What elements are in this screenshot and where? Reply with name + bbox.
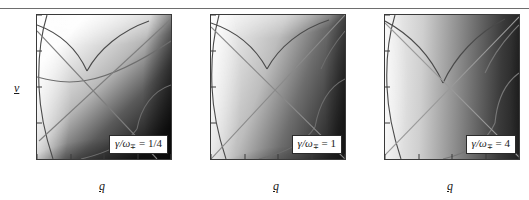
panel-3-xtick-mark-0 [452, 154, 453, 159]
panel-2-ytick-mark-1 [211, 51, 216, 52]
panel-2: γ/ω∓ = 1 2 1 0 -1 -2 -1 0 1 2 q [176, 14, 352, 200]
panel-3-equals: = [493, 137, 505, 149]
figure-root: γ/ω∓ = 1/4 2 1 0 -1 -2 -1 0 1 2 v q [0, 0, 529, 200]
panel-1-x-axis-label: q [99, 180, 105, 192]
panel-2-equals: = [319, 137, 331, 149]
panel-1-ytick-mark-1 [37, 51, 42, 52]
panel-2-ytick-mark-0 [211, 87, 216, 88]
panel-3-xtick-mark-n1 [418, 154, 419, 159]
panel-2-x-axis-label: q [273, 180, 279, 192]
panel-3-value: 4 [505, 137, 511, 149]
panel-3-ytick-mark-1 [385, 51, 390, 52]
panel-1-xtick-mark-1 [137, 154, 138, 159]
top-rule [0, 8, 529, 9]
panel-2-ratio-label: γ/ω∓ = 1 [292, 135, 342, 154]
panel-1-xtick-mark-2 [171, 154, 172, 159]
panel-3-ytick-mark-0 [385, 87, 390, 88]
panel-1-ytick-mark-n1 [37, 123, 42, 124]
panel-1-value: 1/4 [148, 137, 162, 149]
panel-3-plot-area: γ/ω∓ = 4 2 1 0 -1 -2 -1 0 1 2 [384, 14, 520, 160]
panel-1-xtick-mark-0 [104, 154, 105, 159]
panel-1: γ/ω∓ = 1/4 2 1 0 -1 -2 -1 0 1 2 v q [0, 14, 178, 200]
panel-2-xtick-mark-1 [311, 154, 312, 159]
panel-3-xtick-mark-1 [485, 154, 486, 159]
panel-1-plot-area: γ/ω∓ = 1/4 2 1 0 -1 -2 -1 0 1 2 [36, 14, 172, 160]
panel-3-xtick-mark-2 [519, 154, 520, 159]
panel-3-ratio-label: γ/ω∓ = 4 [466, 135, 516, 154]
panel-3-ytick-mark-2 [385, 15, 390, 16]
panel-1-y-axis-label: v [14, 82, 19, 94]
panel-2-ytick-mark-2 [211, 15, 216, 16]
panel-3-omega: ω [479, 137, 487, 149]
panel-2-value: 1 [331, 137, 337, 149]
panel-1-xtick-mark-n1 [70, 154, 71, 159]
panel-1-ytick-mark-2 [37, 15, 42, 16]
panel-3-x-axis-label: q [447, 180, 453, 192]
panel-3-ytick-mark-n1 [385, 123, 390, 124]
panel-3: γ/ω∓ = 4 2 1 0 -1 -2 -1 0 1 2 q [350, 14, 529, 200]
panel-2-xtick-mark-2 [345, 154, 346, 159]
panel-1-equals: = [136, 137, 148, 149]
panel-2-omega: ω [305, 137, 313, 149]
panel-2-ytick-mark-n1 [211, 123, 216, 124]
panel-3-xtick-mark-n2 [385, 154, 386, 159]
panel-1-xtick-mark-n2 [37, 154, 38, 159]
panel-2-xtick-mark-0 [278, 154, 279, 159]
panel-2-xtick-mark-n2 [211, 154, 212, 159]
panel-2-plot-area: γ/ω∓ = 1 2 1 0 -1 -2 -1 0 1 2 [210, 14, 346, 160]
panel-1-ratio-label: γ/ω∓ = 1/4 [109, 135, 168, 154]
panel-1-ytick-mark-0 [37, 87, 42, 88]
panel-2-xtick-mark-n1 [244, 154, 245, 159]
